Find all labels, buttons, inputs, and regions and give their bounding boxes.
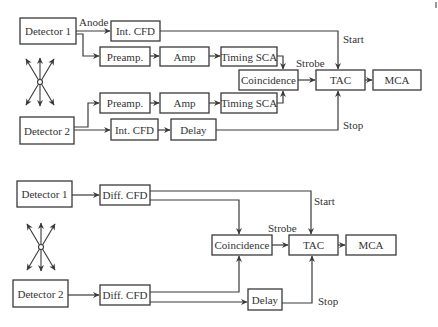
diff-cfd-2-box: Diff. CFD: [100, 285, 150, 305]
mca-box-b: MCA: [346, 235, 396, 255]
svg-text:Detector 1: Detector 1: [21, 188, 67, 200]
radiation-source-icon: [26, 58, 54, 106]
svg-text:Detector 1: Detector 1: [25, 25, 71, 37]
svg-text:Diff. CFD: Diff. CFD: [102, 189, 147, 201]
timing-sca-2-box: Timing SCA: [221, 93, 277, 113]
tac-box: TAC: [316, 70, 365, 90]
bottom-diagram: Detector 1 Diff. CFD Coincidence TAC MCA…: [13, 181, 396, 310]
svg-text:Amp: Amp: [174, 97, 197, 109]
preamp-2-box: Preamp.: [100, 93, 150, 113]
svg-text:Coincidence: Coincidence: [241, 74, 296, 86]
detector-1-box-b: Detector 1: [17, 181, 72, 207]
svg-text:Timing SCA: Timing SCA: [221, 51, 277, 63]
start-label: Start: [343, 33, 364, 45]
detector-2-box-b: Detector 2: [13, 280, 68, 307]
diff-cfd-1-box: Diff. CFD: [100, 185, 150, 205]
mca-box: MCA: [373, 70, 421, 90]
detector-2-box: Detector 2: [20, 117, 74, 144]
svg-text:TAC: TAC: [330, 74, 351, 86]
svg-text:Delay: Delay: [252, 294, 279, 306]
svg-text:Coincidence: Coincidence: [215, 239, 270, 251]
svg-text:TAC: TAC: [303, 239, 324, 251]
stop-label-b: Stop: [318, 295, 339, 307]
coincidence-box: Coincidence: [239, 70, 298, 90]
amp-1-box: Amp: [160, 47, 209, 66]
svg-text:Int. CFD: Int. CFD: [115, 124, 154, 136]
top-diagram: Detector 1 Int. CFD Preamp. Amp Timing S…: [20, 16, 421, 144]
strobe-label-b: Strobe: [268, 222, 297, 234]
preamp-1-box: Preamp.: [100, 47, 150, 66]
coincidence-box-b: Coincidence: [212, 235, 272, 255]
anode-label: Anode: [79, 16, 108, 28]
int-cfd-1-box: Int. CFD: [111, 21, 160, 41]
svg-text:MCA: MCA: [384, 74, 409, 86]
coincidence-timing-diagrams: Detector 1 Int. CFD Preamp. Amp Timing S…: [0, 0, 438, 327]
svg-text:Timing SCA: Timing SCA: [221, 97, 277, 109]
strobe-label: Strobe: [296, 57, 325, 69]
svg-text:MCA: MCA: [358, 239, 383, 251]
svg-text:Amp: Amp: [174, 51, 197, 63]
svg-text:Detector 2: Detector 2: [17, 288, 63, 300]
svg-text:Preamp.: Preamp.: [107, 97, 144, 109]
radiation-source-icon-2: [27, 223, 55, 271]
amp-2-box: Amp: [160, 93, 209, 113]
svg-text:Int. CFD: Int. CFD: [116, 25, 155, 37]
stop-label: Stop: [343, 119, 364, 131]
start-label-b: Start: [314, 195, 335, 207]
int-cfd-2-box: Int. CFD: [111, 119, 158, 140]
delay-box: Delay: [171, 119, 216, 140]
detector-1-box: Detector 1: [20, 18, 76, 44]
svg-text:Delay: Delay: [180, 124, 207, 136]
svg-text:Preamp.: Preamp.: [107, 51, 144, 63]
svg-text:Detector 2: Detector 2: [24, 125, 70, 137]
tac-box-b: TAC: [289, 235, 338, 255]
svg-text:Diff. CFD: Diff. CFD: [102, 289, 147, 301]
timing-sca-1-box: Timing SCA: [221, 47, 277, 66]
delay-box-b: Delay: [248, 289, 282, 310]
